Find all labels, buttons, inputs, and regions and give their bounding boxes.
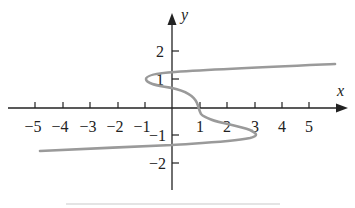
svg-text:−2: −2 bbox=[106, 118, 123, 135]
svg-text:5: 5 bbox=[305, 118, 313, 135]
svg-text:2: 2 bbox=[223, 118, 231, 135]
x-axis-name: x bbox=[336, 82, 344, 99]
svg-text:−4: −4 bbox=[51, 118, 68, 135]
x-tick-labels: −5 −4 −3 −2 −1 1 2 3 4 5 bbox=[24, 118, 313, 135]
y-axis-name: y bbox=[179, 6, 189, 24]
svg-text:4: 4 bbox=[278, 118, 286, 135]
x-axis-arrow-icon bbox=[336, 104, 348, 113]
y-axis-arrow-icon bbox=[168, 13, 177, 25]
svg-text:−5: −5 bbox=[24, 118, 41, 135]
svg-text:−1: −1 bbox=[149, 127, 166, 144]
svg-text:−2: −2 bbox=[149, 155, 166, 172]
svg-text:1: 1 bbox=[196, 118, 204, 135]
svg-text:−1: −1 bbox=[133, 118, 150, 135]
svg-text:2: 2 bbox=[156, 43, 164, 60]
svg-text:−3: −3 bbox=[79, 118, 96, 135]
plot: −5 −4 −3 −2 −1 1 2 3 4 5 2 1 −1 −2 y x bbox=[0, 0, 355, 208]
